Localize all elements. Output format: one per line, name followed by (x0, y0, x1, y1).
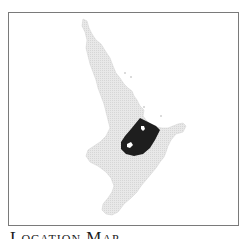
offshore-island (124, 72, 126, 74)
offshore-island (130, 76, 132, 78)
map-caption: Location Map (10, 228, 120, 239)
offshore-island (143, 106, 145, 108)
north-island-landmass (82, 19, 186, 215)
offshore-island (160, 115, 162, 117)
location-map (0, 0, 244, 239)
